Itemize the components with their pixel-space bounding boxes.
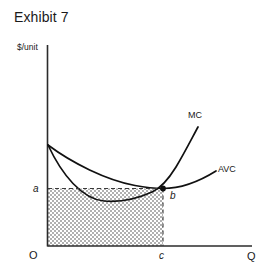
intersection-point-marker	[160, 186, 166, 192]
curve-label-avc: AVC	[218, 164, 236, 174]
y-axis-label: $/unit	[17, 42, 38, 52]
avc-curve	[48, 145, 216, 189]
exhibit-figure: Exhibit 7 $/unit	[0, 0, 267, 276]
label-point-b: b	[170, 190, 176, 201]
x-axis-label: Q	[247, 250, 256, 262]
origin-label: O	[29, 249, 38, 261]
shaded-variable-cost-area	[48, 189, 163, 247]
label-point-c: c	[159, 250, 164, 261]
label-point-a: a	[33, 183, 39, 194]
curve-label-mc: MC	[188, 110, 202, 120]
cost-curves-chart: $/unit Q O a b c MC AVC	[0, 0, 267, 276]
